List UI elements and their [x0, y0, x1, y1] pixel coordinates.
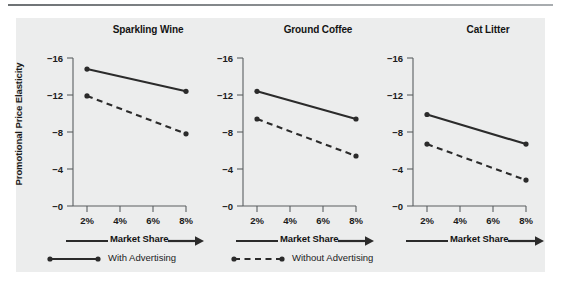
- legend-label-without-advertising: Without Advertising: [292, 252, 373, 263]
- svg-text:−8: −8: [52, 127, 63, 138]
- svg-text:−0: −0: [52, 201, 63, 212]
- chart-area: Promotional Price Elasticity Sparkling W…: [16, 18, 545, 272]
- legend-swatch-solid: [46, 253, 102, 265]
- figure-root: Promotional Price Elasticity Sparkling W…: [0, 0, 561, 289]
- panel-sparkling-wine: −16 −12 −8 −4 −0 2% 4% 6% 8%: [47, 53, 194, 227]
- svg-text:4%: 4%: [113, 215, 127, 226]
- svg-text:6%: 6%: [146, 215, 160, 226]
- svg-text:−0: −0: [222, 201, 233, 212]
- svg-text:−0: −0: [392, 201, 403, 212]
- svg-text:8%: 8%: [519, 215, 533, 226]
- top-divider-rule: [8, 4, 553, 6]
- svg-text:6%: 6%: [316, 215, 330, 226]
- svg-text:4%: 4%: [283, 215, 297, 226]
- svg-text:−12: −12: [47, 90, 63, 101]
- svg-text:−12: −12: [217, 90, 233, 101]
- svg-text:8%: 8%: [179, 215, 193, 226]
- panel-cat-litter: −16 −12 −8 −4 −0 2% 4% 6% 8%: [387, 53, 534, 227]
- x-axis-caption-0: Market Share: [110, 233, 168, 244]
- svg-text:−4: −4: [52, 164, 64, 175]
- svg-text:−16: −16: [47, 53, 63, 64]
- svg-text:−12: −12: [387, 90, 403, 101]
- svg-text:4%: 4%: [453, 215, 467, 226]
- svg-text:−4: −4: [222, 164, 234, 175]
- x-axis-caption-2: Market Share: [450, 233, 508, 244]
- svg-text:−8: −8: [392, 127, 403, 138]
- svg-text:8%: 8%: [349, 215, 363, 226]
- svg-text:−8: −8: [222, 127, 233, 138]
- legend-swatch-dashed: [230, 253, 286, 265]
- panel-ground-coffee: −16 −12 −8 −4 −0 2% 4% 6% 8%: [217, 53, 364, 227]
- svg-text:6%: 6%: [486, 215, 500, 226]
- x-axis-caption-1: Market Share: [280, 233, 338, 244]
- svg-text:−16: −16: [387, 53, 403, 64]
- svg-text:2%: 2%: [80, 215, 94, 226]
- svg-text:2%: 2%: [250, 215, 264, 226]
- svg-text:2%: 2%: [420, 215, 434, 226]
- svg-text:−16: −16: [217, 53, 233, 64]
- legend-label-with-advertising: With Advertising: [108, 252, 176, 263]
- svg-text:−4: −4: [392, 164, 404, 175]
